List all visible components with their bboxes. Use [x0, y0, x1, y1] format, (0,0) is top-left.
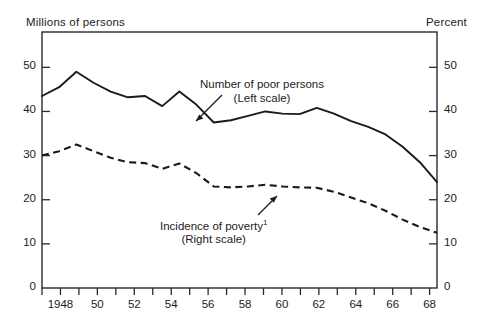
y-axis-right-tick-label: 0 [444, 280, 470, 292]
right-axis-title: Percent [426, 16, 467, 28]
annotation-incidence-line1: Incidence of poverty [160, 220, 263, 232]
y-axis-left-tick-label: 20 [10, 192, 36, 204]
x-axis-tick-label: 56 [188, 298, 228, 310]
annotation-incidence-of-poverty: Incidence of poverty1 (Right scale) [160, 216, 267, 247]
y-axis-right-tick-label: 10 [444, 236, 470, 248]
x-axis-tick-label: 58 [225, 298, 265, 310]
y-axis-right-tick-label: 30 [444, 148, 470, 160]
annotation-poor-persons-line1: Number of poor persons [200, 78, 324, 90]
x-axis-tick-label: 62 [299, 298, 339, 310]
y-axis-left-tick-label: 40 [10, 103, 36, 115]
x-axis-tick-label: 64 [336, 298, 376, 310]
x-axis-tick-label: 54 [151, 298, 191, 310]
annotation-incidence-line2: (Right scale) [160, 233, 267, 247]
y-axis-right-ticks [429, 67, 437, 244]
y-axis-left-tick-label: 0 [10, 280, 36, 292]
y-axis-right-tick-label: 50 [444, 59, 470, 71]
left-axis-title: Millions of persons [26, 16, 125, 28]
annotation-arrow-incidence [258, 196, 277, 215]
y-axis-left-tick-label: 10 [10, 236, 36, 248]
x-axis-tick-label: 1948 [40, 298, 80, 310]
chart-plot-area [0, 0, 481, 332]
annotation-poor-persons: Number of poor persons (Left scale) [200, 78, 324, 105]
x-axis-tick-label: 52 [114, 298, 154, 310]
x-axis-tick-label: 66 [373, 298, 413, 310]
x-axis-tick-label: 50 [77, 298, 117, 310]
x-axis-tick-label: 68 [410, 298, 450, 310]
y-axis-right-tick-label: 40 [444, 103, 470, 115]
poverty-chart-figure: Millions of persons Percent Number of po… [0, 0, 481, 332]
plot-frame [42, 32, 437, 288]
x-axis-tick-label: 60 [262, 298, 302, 310]
annotation-incidence-footnote-marker: 1 [263, 218, 267, 227]
x-axis-ticks [42, 288, 430, 295]
y-axis-left-tick-label: 30 [10, 148, 36, 160]
annotation-poor-persons-line2: (Left scale) [200, 92, 324, 106]
y-axis-right-tick-label: 20 [444, 192, 470, 204]
y-axis-left-tick-label: 50 [10, 59, 36, 71]
